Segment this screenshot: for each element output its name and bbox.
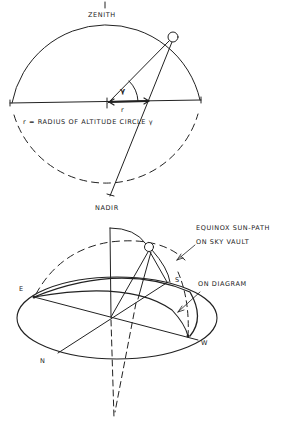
zenith-axis [110, 228, 111, 317]
east-west-line [34, 297, 198, 340]
altitude-circle-diagram [10, 2, 201, 196]
sun-icon [168, 32, 178, 42]
north-south-line [58, 282, 168, 353]
sun-path-label-line2: ON SKY VAULT [196, 238, 249, 246]
sun-path-diagram: ZENITH γ r r = RADIUS OF ALTITUDE CIRCLE… [0, 0, 285, 423]
nadir-label: NADIR [95, 204, 119, 212]
zenith-label: ZENITH [88, 11, 116, 19]
on-diagram-label: ON DIAGRAM [198, 280, 247, 288]
altitude-ray [108, 40, 170, 103]
radius-arrow [110, 101, 148, 102]
horizon-ellipse [17, 277, 217, 359]
sky-vault-leader [177, 245, 195, 260]
west-label: W [201, 339, 208, 347]
east-label: E [19, 285, 24, 293]
r-label: r [121, 106, 124, 114]
radius-caption: r = RADIUS OF ALTITUDE CIRCLE γ [23, 118, 153, 126]
diagram-sun-path [34, 278, 198, 336]
south-label: S [175, 276, 180, 284]
sun-path-label-line1: EQUINOX SUN-PATH [196, 224, 270, 232]
horizon-line [10, 100, 201, 103]
sky-vault-3d-diagram [17, 228, 217, 418]
gamma-label: γ [120, 86, 125, 95]
sun-icon-3d [145, 243, 154, 252]
meridian-arc [152, 250, 170, 282]
north-label: N [40, 357, 45, 365]
gamma-angle-arc [129, 81, 138, 101]
